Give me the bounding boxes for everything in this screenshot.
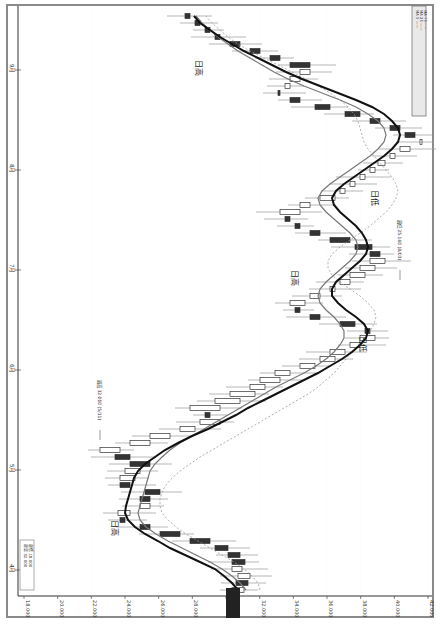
legend: MA 5 ——MA 25 ——MA 75 ····· (415, 10, 428, 31)
candle-body (378, 161, 385, 166)
time-tick-label: 6月 (8, 364, 15, 374)
candle-body (350, 273, 365, 278)
candle-body (330, 238, 350, 243)
candle-body (310, 315, 320, 320)
candle-body (260, 378, 280, 383)
candle-body (145, 490, 160, 495)
info-box: 最高 32.000最低 18.000 (20, 540, 34, 590)
candle-body (280, 210, 300, 215)
candle-body (185, 14, 190, 19)
candle-body (115, 455, 130, 460)
candlestick-chart: 18.00020.00022.00024.00026.00028.00030.0… (0, 0, 440, 624)
candle-body (205, 413, 210, 418)
candle-body (140, 504, 150, 509)
price-tick-label: 40.000 (395, 600, 401, 618)
candle-body (315, 105, 330, 110)
candle-body (390, 154, 395, 159)
candle-body (275, 371, 290, 376)
candle-body (370, 259, 385, 264)
candle-body (340, 322, 355, 327)
candle-body (300, 70, 310, 75)
candle-body (190, 406, 220, 411)
time-tick-label: 4月 (8, 564, 15, 574)
annotation-label: 日高 (290, 270, 300, 286)
annotation-label: 日高 (110, 520, 120, 536)
time-axis-ticks: 4月5月6月7月8月9月 (8, 64, 21, 574)
candle-body (100, 448, 120, 453)
time-tick-label: 7月 (8, 264, 15, 274)
time-tick-label: 9月 (8, 64, 15, 74)
candle-body (215, 399, 240, 404)
chart-frame: 18.00020.00022.00024.00026.00028.00030.0… (0, 0, 440, 624)
candle-body (360, 266, 375, 271)
candle-body (250, 385, 265, 390)
price-tick-label: 26.000 (160, 600, 166, 618)
candle-body (150, 434, 170, 439)
price-tick-label: 36.000 (328, 600, 334, 618)
current-price-box (226, 588, 240, 618)
candle-body (270, 56, 280, 61)
price-tick-label: 38.000 (362, 600, 368, 618)
candle-body (228, 553, 240, 558)
candle-body (180, 427, 195, 432)
candle-body (370, 168, 375, 173)
candle-body (360, 175, 365, 180)
price-tick-label: 24.000 (126, 600, 132, 618)
candle-body (340, 189, 345, 194)
candle-body (295, 224, 300, 229)
candle-body (290, 301, 305, 306)
candle-body (295, 308, 300, 313)
time-tick-label: 8月 (8, 164, 15, 174)
candle-body (300, 203, 310, 208)
ma-gray-line (138, 16, 386, 590)
candle-body (420, 140, 422, 145)
candle-body (285, 217, 290, 222)
candle-body (310, 231, 320, 236)
candle-body (290, 63, 310, 68)
ma-black-line (125, 16, 400, 590)
candle-body (340, 280, 350, 285)
candle-body (278, 91, 280, 96)
info-line: 最低 18.000 (28, 544, 34, 568)
annotation-label: 日低 (358, 336, 368, 352)
candle-body (120, 518, 125, 523)
candle-body (130, 441, 150, 446)
price-tick-label: 32.000 (261, 600, 267, 618)
candle-body (232, 560, 245, 565)
grid (24, 8, 428, 596)
candle-body (215, 546, 228, 551)
candle-body (285, 84, 290, 89)
time-tick-label: 5月 (8, 464, 15, 474)
candle-body (232, 567, 242, 572)
candle-body (250, 49, 260, 54)
price-tick-label: 34.000 (294, 600, 300, 618)
candle-body (405, 133, 415, 138)
callout-label: 最低 25.160 (8/03) (396, 220, 403, 260)
candle-body (290, 98, 300, 103)
candle-body (120, 483, 130, 488)
annotation-label: 日低 (370, 190, 380, 206)
price-tick-label: 22.000 (92, 600, 98, 618)
price-tick-label: 18.000 (25, 600, 31, 618)
price-tick-label: 28.000 (193, 600, 199, 618)
candle-body (160, 532, 180, 537)
legend-entry: MA 75 ····· (423, 10, 428, 29)
candle-body (350, 182, 355, 187)
candle-body (230, 392, 255, 397)
callout-label: 最高 32.000 (5/11) (96, 380, 103, 420)
candle-body (370, 252, 380, 257)
candle-body (400, 147, 410, 152)
price-tick-label: 20.000 (59, 600, 65, 618)
annotation-label: 日高 (194, 60, 204, 76)
candle-body (238, 574, 250, 579)
price-tick-label: 42.000 (429, 600, 435, 618)
candle-body (190, 539, 210, 544)
